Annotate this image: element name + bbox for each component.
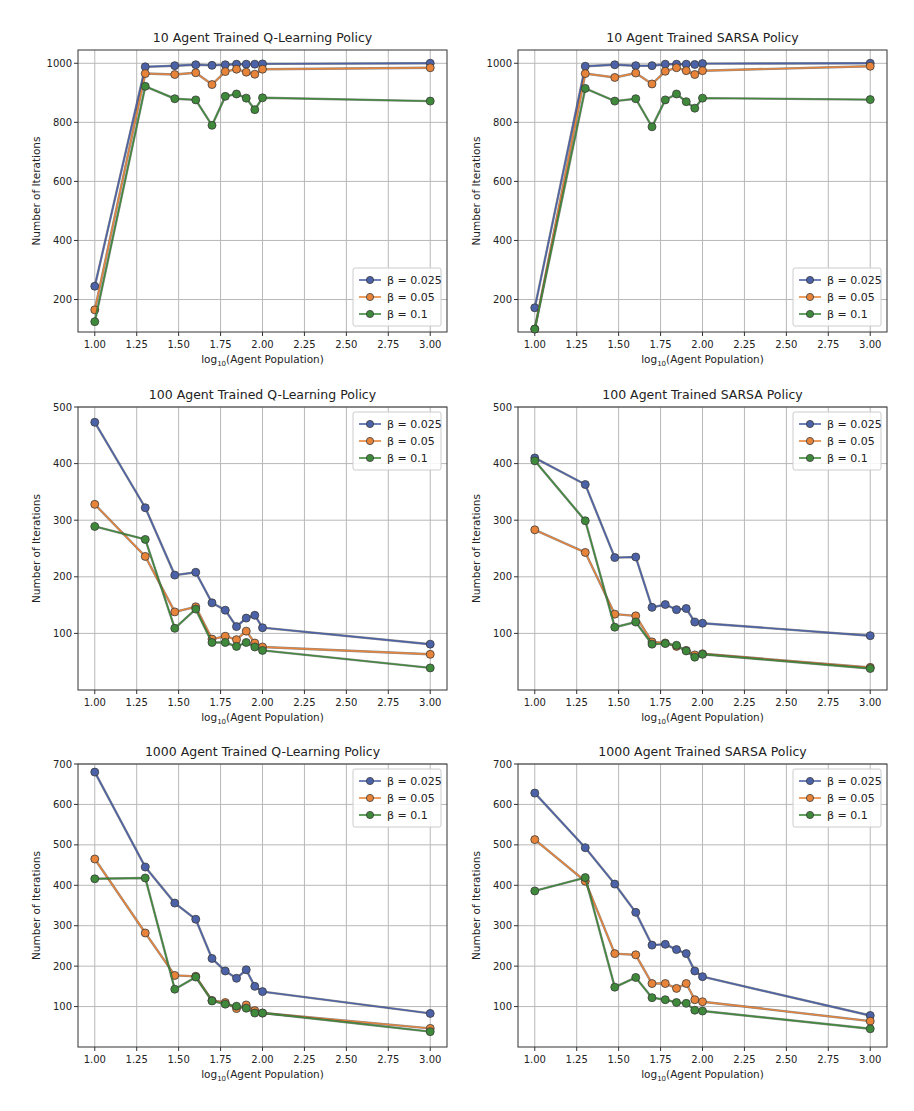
x-tick-label: 2.75 [377,697,399,708]
y-tick-label: 100 [493,1001,512,1012]
data-point [242,60,250,68]
legend-label: β = 0.025 [387,274,442,287]
data-point [171,624,179,632]
chart-title: 10 Agent Trained SARSA Policy [606,30,799,45]
data-point [141,929,149,937]
data-point [661,980,669,988]
data-point [611,983,619,991]
y-tick-label: 500 [493,402,512,413]
legend-marker-icon [806,310,813,317]
data-point [259,624,267,632]
data-point [648,80,656,88]
y-tick-label: 300 [53,515,72,526]
x-tick-label: 1.25 [126,697,148,708]
data-point [866,1017,874,1025]
data-point [259,65,267,73]
data-point [682,67,690,75]
data-point [531,887,539,895]
x-tick-label: 2.00 [251,697,273,708]
data-point [682,999,690,1007]
data-point [242,627,250,635]
x-tick-label: 2.25 [293,1054,315,1065]
data-point [221,606,229,614]
x-tick-label: 2.50 [335,339,357,350]
chart-1000-agent-q-learning: 1000 Agent Trained Q-Learning Policy1.00… [0,740,457,1110]
data-point [251,60,259,68]
data-point [673,984,681,992]
data-point [611,623,619,631]
chart-100-agent-q-learning: 100 Agent Trained Q-Learning Policy1.001… [0,370,457,740]
data-point [699,619,707,627]
chart-svg: 1000 Agent Trained Q-Learning Policy1.00… [0,740,457,1110]
data-point [581,70,589,78]
data-point [251,611,259,619]
x-tick-label: 1.50 [168,697,190,708]
data-point [233,65,241,73]
legend-marker-icon [806,276,813,283]
data-point [581,84,589,92]
data-point [691,71,699,79]
x-tick-label: 1.25 [126,339,148,350]
data-point [192,605,200,613]
data-point [233,1002,241,1010]
legend-marker-icon [366,811,373,818]
legend-label: β = 0.05 [827,291,875,304]
x-tick-label: 1.25 [566,339,588,350]
x-tick-label: 1.75 [649,1054,671,1065]
legend-marker-icon [366,794,373,801]
data-point [611,950,619,958]
legend-label: β = 0.1 [827,452,868,465]
legend-marker-icon [806,454,813,461]
data-point [171,985,179,993]
y-axis-label: Number of Iterations [470,137,482,246]
data-point [632,618,640,626]
data-point [699,650,707,658]
data-point [648,603,656,611]
y-tick-label: 200 [493,961,512,972]
data-point [648,941,656,949]
x-tick-label: 2.50 [775,339,797,350]
data-point [426,650,434,658]
data-point [866,62,874,70]
data-point [91,418,99,426]
data-point [648,640,656,648]
x-tick-label: 1.75 [649,339,671,350]
data-point [221,1000,229,1008]
data-point [866,632,874,640]
legend: β = 0.025β = 0.05β = 0.1 [353,412,442,470]
data-point [581,517,589,525]
y-tick-label: 400 [53,235,72,246]
data-point [682,604,690,612]
x-tick-label: 1.50 [168,1054,190,1065]
data-point [673,641,681,649]
x-tick-label: 2.00 [251,339,273,350]
x-tick-label: 1.75 [649,697,671,708]
data-point [91,500,99,508]
x-tick-label: 1.00 [524,1054,546,1065]
data-point [691,967,699,975]
x-tick-label: 1.25 [566,697,588,708]
data-point [661,67,669,75]
x-tick-label: 3.00 [859,697,881,708]
data-point [531,325,539,333]
legend-label: β = 0.1 [387,809,428,822]
data-point [866,96,874,104]
data-point [208,61,216,69]
legend: β = 0.025β = 0.05β = 0.1 [353,769,442,827]
legend-label: β = 0.025 [827,274,882,287]
data-point [581,481,589,489]
data-point [699,67,707,75]
x-axis-label: log10(Agent Population) [201,1068,324,1083]
data-point [632,95,640,103]
data-point [221,638,229,646]
data-point [242,966,250,974]
y-tick-label: 400 [493,458,512,469]
data-point [661,940,669,948]
y-tick-label: 500 [53,402,72,413]
legend-marker-icon [806,811,813,818]
legend-marker-icon [806,420,813,427]
x-tick-label: 1.50 [168,339,190,350]
data-point [611,880,619,888]
data-point [242,1004,250,1012]
data-point [141,863,149,871]
